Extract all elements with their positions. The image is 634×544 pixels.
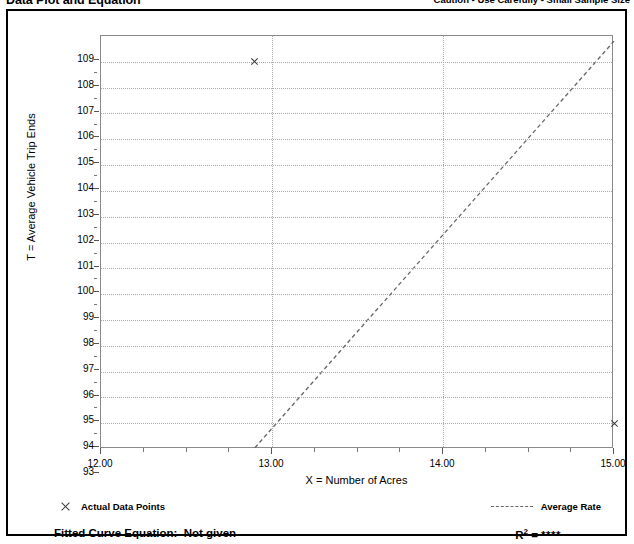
- r-squared-exponent: 2: [524, 527, 528, 536]
- x-cross-icon: [60, 501, 71, 512]
- y-tick-label: 97: [48, 364, 94, 374]
- x-tick-mark: [271, 448, 272, 454]
- r-squared-equals: =: [531, 529, 538, 541]
- y-tick-minor: [94, 407, 97, 408]
- gridline-horizontal: [101, 62, 612, 63]
- page-title: Data Plot and Equation: [6, 0, 141, 7]
- gridline-horizontal: [101, 217, 612, 218]
- x-tick-label: 15.00: [578, 458, 634, 469]
- gridline-horizontal: [101, 294, 612, 295]
- y-tick-label: 103: [48, 209, 94, 219]
- y-tick-mark: [94, 59, 99, 60]
- average-rate-trendline: [255, 41, 614, 448]
- gridline-horizontal: [101, 113, 612, 114]
- x-tick-minor: [399, 448, 400, 452]
- y-tick-mark: [94, 472, 99, 473]
- data-point-marker: [250, 57, 259, 66]
- gridline-horizontal: [101, 320, 612, 321]
- data-point-marker: [610, 419, 619, 428]
- x-tick-label: 13.00: [236, 458, 306, 469]
- r-squared-number: ****: [541, 529, 561, 541]
- y-tick-mark: [94, 188, 99, 189]
- legend-label-actual-data-points: Actual Data Points: [81, 501, 165, 512]
- gridline-horizontal: [101, 423, 612, 424]
- legend-item-actual-data-points: Actual Data Points: [60, 501, 165, 512]
- y-tick-label: 94: [48, 441, 94, 451]
- y-tick-minor: [94, 278, 97, 279]
- gridline-horizontal: [101, 243, 612, 244]
- y-tick-mark: [94, 291, 99, 292]
- gridline-horizontal: [101, 372, 612, 373]
- y-tick-minor: [94, 253, 97, 254]
- gridline-vertical: [443, 36, 444, 447]
- y-tick-mark: [94, 214, 99, 215]
- y-tick-label: 102: [48, 235, 94, 245]
- y-tick-mark: [94, 317, 99, 318]
- y-tick-label: 95: [48, 415, 94, 425]
- y-axis-ticks: 1091081071061051041031021011009998979695…: [42, 35, 94, 448]
- chart-legend: Actual Data Points Average Rate: [8, 498, 629, 520]
- gridline-horizontal: [101, 139, 612, 140]
- y-tick-mark: [94, 395, 99, 396]
- y-tick-minor: [94, 382, 97, 383]
- x-tick-minor: [228, 448, 229, 452]
- y-tick-label: 109: [48, 54, 94, 64]
- y-tick-mark: [94, 369, 99, 370]
- r-squared-value: R2 = ****: [515, 527, 561, 541]
- y-tick-minor: [94, 356, 97, 357]
- x-tick-minor: [143, 448, 144, 452]
- y-tick-mark: [94, 85, 99, 86]
- gridline-horizontal: [101, 191, 612, 192]
- y-tick-minor: [94, 433, 97, 434]
- legend-label-average-rate: Average Rate: [541, 501, 601, 512]
- y-tick-mark: [94, 240, 99, 241]
- y-tick-minor: [94, 330, 97, 331]
- gridline-horizontal: [101, 88, 612, 89]
- chart-footer: Fitted Curve Equation: Not given R2 = **…: [8, 527, 629, 544]
- caution-note: Caution - Use Carefully - Small Sample S…: [434, 0, 630, 5]
- x-tick-mark: [442, 448, 443, 454]
- y-tick-minor: [94, 304, 97, 305]
- x-tick-minor: [186, 448, 187, 452]
- y-tick-minor: [94, 149, 97, 150]
- legend-item-average-rate: Average Rate: [491, 501, 601, 512]
- x-tick-label: 14.00: [407, 458, 477, 469]
- y-tick-minor: [94, 227, 97, 228]
- y-tick-minor: [94, 201, 97, 202]
- fitted-curve-equation: Fitted Curve Equation: Not given: [54, 527, 236, 539]
- y-tick-label: 100: [48, 286, 94, 296]
- r-squared-symbol: R: [515, 529, 523, 541]
- x-tick-minor: [570, 448, 571, 452]
- plot-box: [100, 35, 613, 448]
- gridline-horizontal: [101, 268, 612, 269]
- y-tick-mark: [94, 266, 99, 267]
- y-tick-mark: [94, 446, 99, 447]
- x-tick-minor: [485, 448, 486, 452]
- y-tick-label: 105: [48, 157, 94, 167]
- y-tick-label: 101: [48, 261, 94, 271]
- y-tick-label: 104: [48, 183, 94, 193]
- fitted-curve-value: Not given: [184, 527, 236, 539]
- y-tick-mark: [94, 343, 99, 344]
- x-tick-mark: [100, 448, 101, 454]
- y-tick-minor: [94, 98, 97, 99]
- y-tick-mark: [94, 111, 99, 112]
- gridline-horizontal: [101, 165, 612, 166]
- plot-frame: T = Average Vehicle Trip Ends 1091081071…: [6, 9, 627, 536]
- gridline-vertical: [272, 36, 273, 447]
- y-tick-label: 108: [48, 80, 94, 90]
- y-tick-label: 106: [48, 131, 94, 141]
- x-tick-minor: [357, 448, 358, 452]
- y-tick-mark: [94, 136, 99, 137]
- gridline-horizontal: [101, 346, 612, 347]
- y-tick-label: 96: [48, 390, 94, 400]
- chart-area: T = Average Vehicle Trip Ends 1091081071…: [8, 11, 629, 538]
- y-tick-mark: [94, 420, 99, 421]
- x-tick-minor: [314, 448, 315, 452]
- y-axis-title: T = Average Vehicle Trip Ends: [25, 92, 37, 282]
- y-tick-minor: [94, 124, 97, 125]
- gridline-horizontal: [101, 397, 612, 398]
- y-tick-label: 107: [48, 106, 94, 116]
- y-tick-minor: [94, 175, 97, 176]
- y-tick-minor: [94, 72, 97, 73]
